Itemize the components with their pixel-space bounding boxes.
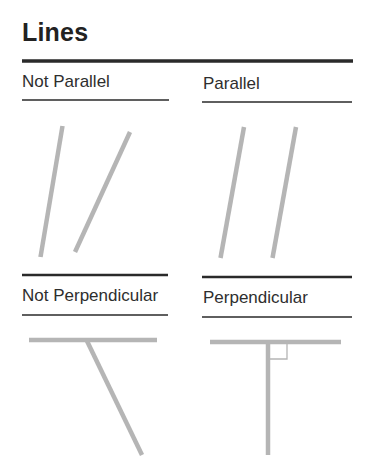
line-segment [273, 127, 297, 258]
right-angle-marker [270, 344, 287, 359]
line-segment [41, 126, 63, 257]
not-perpendicular-figure [29, 340, 157, 455]
line-segment [75, 132, 130, 252]
parallel-figure [221, 127, 297, 258]
lines-diagram [0, 0, 365, 468]
perpendicular-figure [210, 342, 341, 455]
not-parallel-figure [41, 126, 131, 257]
line-segment [221, 127, 245, 258]
line-segment [87, 341, 142, 455]
